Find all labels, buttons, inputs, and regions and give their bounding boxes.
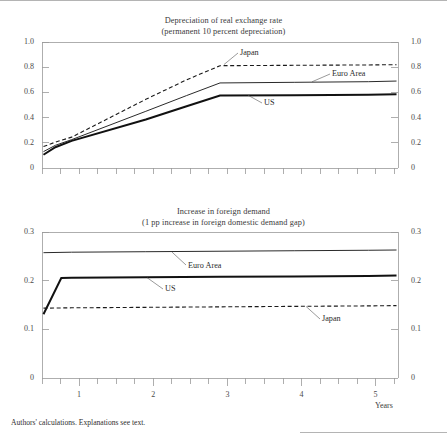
series-line-us-top: [43, 94, 396, 155]
bottom-ytick-right-0-3: 0.3: [411, 228, 437, 236]
top-ytick-right-0: 0: [411, 164, 437, 172]
top-annotation-euro-area: Euro Area: [332, 69, 365, 78]
bottom-annotation-us: US: [165, 284, 175, 293]
bottom-annotation-euro-area: Euro Area: [188, 261, 221, 270]
top-ytick-left-0-6: 0.6: [8, 88, 34, 96]
top-ytick-right-0-2: 0.2: [411, 139, 437, 147]
xtick-label-1: 1: [71, 391, 87, 399]
top-chart-plot: [0, 0, 447, 200]
bottom-ytick-left-0-1: 0.1: [8, 325, 34, 333]
bottom-ytick-left-0-3: 0.3: [8, 228, 34, 236]
series-line-euro-area-bottom: [43, 250, 396, 253]
figure-container: Depreciation of real exchange rate (perm…: [0, 0, 447, 439]
bottom-ytick-left-0: 0: [8, 374, 34, 382]
bottom-chart-title-line1: Increase in foreign demand: [0, 207, 447, 218]
figure-footnote: Authors' calculations. Explanations see …: [11, 418, 145, 427]
xtick-label-4: 4: [294, 391, 310, 399]
top-ytick-left-0-8: 0.8: [8, 63, 34, 71]
bottom-annotation-japan: Japan: [322, 314, 341, 323]
bottom-ytick-left-0-2: 0.2: [8, 277, 34, 285]
page-rule-bottom: [300, 432, 447, 433]
top-ytick-left-0-4: 0.4: [8, 114, 34, 122]
top-ytick-right-0-8: 0.8: [411, 63, 437, 71]
top-ytick-right-1-0: 1.0: [411, 38, 437, 46]
top-ytick-left-1-0: 1.0: [8, 38, 34, 46]
top-ytick-right-0-6: 0.6: [411, 88, 437, 96]
series-line-euro-area-top: [43, 81, 396, 152]
series-line-japan-bottom: [43, 306, 396, 309]
xtick-label-5: 5: [368, 391, 384, 399]
bottom-chart-plot: [0, 225, 447, 400]
series-line-us-bottom: [43, 276, 396, 315]
top-annotation-us: US: [264, 98, 274, 107]
top-ytick-left-0-2: 0.2: [8, 139, 34, 147]
bottom-ytick-right-0: 0: [411, 374, 437, 382]
bottom-ytick-right-0-1: 0.1: [411, 325, 437, 333]
xtick-label-3: 3: [219, 391, 235, 399]
bottom-ytick-right-0-2: 0.2: [411, 277, 437, 285]
xtick-label-2: 2: [145, 391, 161, 399]
top-ytick-left-0: 0: [8, 164, 34, 172]
top-annotation-japan: Japan: [240, 48, 259, 57]
x-axis-label-years: Years: [375, 401, 393, 410]
top-ytick-right-0-4: 0.4: [411, 114, 437, 122]
